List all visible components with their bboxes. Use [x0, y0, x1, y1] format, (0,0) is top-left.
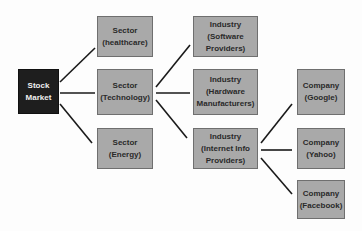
node-label: (Energy): [109, 149, 141, 161]
connector-root-healthcare: [60, 48, 95, 82]
node-label: (Google): [305, 92, 338, 104]
node-label: Stock: [28, 80, 50, 92]
node-industry-internet-info: Industry (Internet Info Providers): [193, 128, 258, 169]
node-label: Company: [303, 80, 339, 92]
node-label: Manufacturers): [197, 98, 255, 110]
node-label: Industry: [210, 19, 242, 31]
node-label: Industry: [210, 74, 242, 86]
connector-technology-software: [156, 45, 190, 87]
node-label: Company: [303, 137, 339, 149]
node-company-facebook: Company (Facebook): [297, 180, 345, 219]
node-sector-energy: Sector (Energy): [97, 128, 153, 169]
node-label: Industry: [210, 131, 242, 143]
node-label: Market: [26, 92, 52, 104]
connector-root-energy: [60, 104, 92, 143]
connector-internet-google: [261, 104, 292, 143]
node-label: Sector: [113, 80, 138, 92]
node-company-yahoo: Company (Yahoo): [297, 128, 345, 169]
node-label: Company: [303, 188, 339, 200]
node-label: Sector: [113, 137, 138, 149]
node-industry-hardware: Industry (Hardware Manufacturers): [193, 69, 258, 115]
node-label: (Internet Info: [201, 143, 250, 155]
node-stock-market: Stock Market: [18, 69, 59, 114]
node-sector-healthcare: Sector (healthcare): [97, 16, 153, 57]
node-label: Sector: [113, 25, 138, 37]
node-label: Providers): [206, 43, 246, 55]
node-label: (Yahoo): [306, 149, 335, 161]
node-label: (Technology): [100, 92, 150, 104]
node-label: (Hardware: [206, 86, 245, 98]
stock-market-hierarchy-diagram: Stock Market Sector (healthcare) Sector …: [0, 0, 362, 231]
connector-technology-internet: [156, 100, 187, 138]
node-label: Providers): [206, 155, 246, 167]
node-label: (Facebook): [300, 200, 343, 212]
node-industry-software: Industry (Software Providers): [193, 16, 258, 57]
node-label: (Software: [207, 31, 243, 43]
node-company-google: Company (Google): [297, 69, 345, 115]
connector-internet-facebook: [261, 158, 292, 194]
node-sector-technology: Sector (Technology): [97, 69, 153, 115]
node-label: (healthcare): [102, 37, 147, 49]
